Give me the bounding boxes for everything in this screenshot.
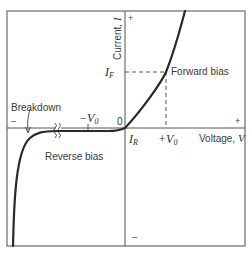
- minus-v0-sub: 0: [94, 117, 98, 126]
- plus-v0-sub: 0: [173, 138, 177, 147]
- y-positive-sign: +: [128, 14, 133, 23]
- y-axis-label-var: I: [111, 17, 123, 21]
- y-axis-label: Current, I: [112, 17, 123, 60]
- forward-bias-label: Forward bias: [171, 67, 229, 77]
- breakdown-label: Breakdown: [11, 103, 61, 113]
- origin-label: 0: [117, 117, 123, 127]
- x-axis-label: Voltage, V: [199, 133, 245, 144]
- x-negative-sign: –: [11, 117, 16, 126]
- x-axis-label-text: Voltage,: [199, 133, 238, 144]
- minus-v0-label: −V0: [79, 112, 98, 126]
- y-axis-label-text: Current,: [112, 21, 123, 60]
- i-reverse-label: IR: [129, 133, 138, 147]
- plus-v0-label: +V0: [158, 133, 177, 147]
- y-negative-sign: –: [132, 233, 137, 242]
- i-reverse-sub: R: [133, 138, 138, 147]
- reverse-bias-label: Reverse bias: [45, 152, 103, 162]
- minus-v0-main: −V: [79, 111, 94, 125]
- plus-v0-main: +V: [158, 132, 173, 146]
- x-positive-sign: +: [235, 117, 240, 126]
- diode-iv-diagram: Current, I + – + – 0 IF IR +V0 −V0 Volta…: [0, 0, 252, 256]
- i-forward-label: IF: [105, 66, 114, 80]
- i-forward-sub: F: [109, 71, 114, 80]
- x-axis-label-var: V: [238, 132, 245, 144]
- iv-plot-canvas: [0, 0, 252, 256]
